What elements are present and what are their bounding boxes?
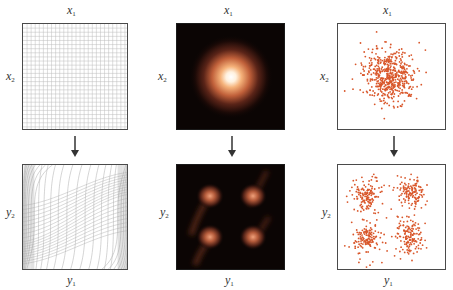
down-arrow-icon <box>226 136 238 158</box>
gaussian-density-panel <box>176 23 285 130</box>
col2-top-x-label: x1 <box>224 4 233 18</box>
col1-bottom-x-label: y1 <box>67 274 76 288</box>
down-arrow-icon <box>388 136 400 158</box>
col1-bottom-y-label: y2 <box>6 206 15 220</box>
gaussian-samples-panel <box>337 23 446 130</box>
col2-bottom-x-label: y1 <box>225 274 234 288</box>
col3-top-y-label: x2 <box>320 70 329 84</box>
col2-bottom-y-label: y2 <box>160 206 169 220</box>
col3-top-x-label: x1 <box>383 4 392 18</box>
col1-top-x-label: x1 <box>67 4 76 18</box>
uniform-grid-panel <box>22 23 128 130</box>
transformed-density-panel <box>176 164 285 270</box>
warped-grid-panel <box>22 164 128 270</box>
transformed-samples-panel <box>337 164 446 270</box>
col2-top-y-label: x2 <box>158 70 167 84</box>
col3-bottom-x-label: y1 <box>384 274 393 288</box>
col3-bottom-y-label: y2 <box>322 206 331 220</box>
down-arrow-icon <box>69 136 81 158</box>
col1-top-y-label: x2 <box>6 70 15 84</box>
